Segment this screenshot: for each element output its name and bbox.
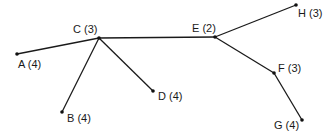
node-g-dot — [300, 118, 304, 122]
node-c-label: C (3) — [73, 23, 97, 35]
node-b-label: B (4) — [67, 112, 91, 124]
edge-e-f — [215, 37, 274, 73]
node-e-label: E (2) — [192, 22, 216, 34]
node-f-label: F (3) — [278, 62, 301, 74]
node-g-label: G (4) — [274, 119, 299, 131]
node-b-dot — [60, 110, 64, 114]
edge-f-g — [274, 73, 302, 120]
node-h-label: H (3) — [298, 7, 322, 19]
edge-c-b — [62, 38, 99, 112]
edge-e-h — [215, 5, 296, 37]
node-d-label: D (4) — [158, 90, 182, 102]
edge-c-e — [99, 37, 215, 38]
tree-diagram: A (4)C (3)B (4)D (4)E (2)H (3)F (3)G (4) — [0, 0, 336, 134]
node-a-dot — [15, 52, 19, 56]
nodes-group — [15, 3, 304, 122]
node-d-dot — [151, 89, 155, 93]
node-f-dot — [272, 71, 276, 75]
edges-group — [17, 5, 302, 120]
node-c-dot — [97, 36, 101, 40]
node-a-label: A (4) — [18, 58, 41, 70]
edge-c-d — [99, 38, 153, 91]
node-e-dot — [213, 35, 217, 39]
edge-a-c — [17, 38, 99, 54]
